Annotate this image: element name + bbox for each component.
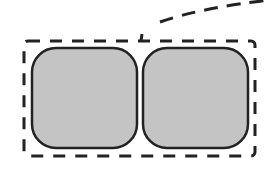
node-right [143,48,248,148]
node-left [32,48,137,148]
dashed-connector [141,0,270,41]
diagram-canvas [0,0,280,170]
